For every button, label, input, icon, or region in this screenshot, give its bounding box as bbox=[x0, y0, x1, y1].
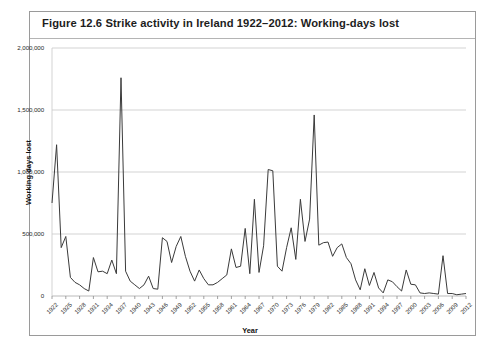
x-axis-title: Year bbox=[170, 326, 330, 335]
y-axis-tick-label: 1,500,000 bbox=[2, 106, 44, 113]
y-axis-title: Working days lost bbox=[24, 125, 33, 221]
line-chart-plot bbox=[0, 0, 486, 347]
chart-area: 0500,0001,000,0001,500,0002,000,000 1922… bbox=[0, 0, 486, 347]
y-axis-tick-label: 0 bbox=[2, 292, 44, 299]
gridlines bbox=[52, 48, 466, 296]
x-axis-tick-marks bbox=[52, 296, 466, 299]
y-axis-tick-label: 500,000 bbox=[2, 230, 44, 237]
y-axis-tick-label: 2,000,000 bbox=[2, 44, 44, 51]
